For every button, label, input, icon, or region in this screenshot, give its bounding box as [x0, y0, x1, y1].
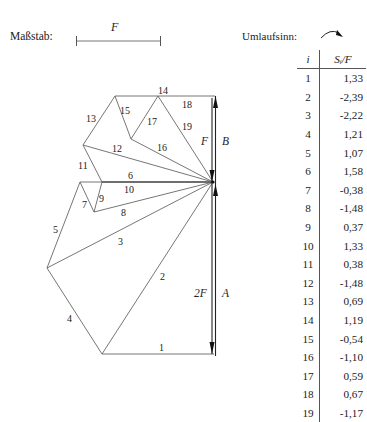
- row-value: -0,38: [320, 181, 367, 200]
- table-row: 15-0,54: [297, 329, 366, 348]
- table-row: 11,33: [297, 69, 366, 88]
- row-value: 1,21: [320, 125, 367, 144]
- force-table: i Sᵢ/F 11,33 2-2,39 3-2,22 41,21 51,07 6…: [297, 50, 366, 422]
- row-index: 1: [297, 69, 320, 88]
- table-header-row: i Sᵢ/F: [297, 50, 366, 69]
- row-value: 0,59: [320, 367, 367, 386]
- row-index: 6: [297, 162, 320, 181]
- row-value: -2,22: [320, 106, 367, 125]
- col-header-s: Sᵢ/F: [320, 50, 367, 69]
- support-label-A: A: [221, 287, 230, 299]
- row-index: 8: [297, 199, 320, 218]
- member-label-4: 4: [67, 313, 72, 324]
- row-value: 0,38: [320, 255, 367, 274]
- row-value: -1,17: [320, 404, 367, 422]
- table-row: 110,38: [297, 255, 366, 274]
- member-label-6: 6: [128, 170, 133, 181]
- row-index: 7: [297, 181, 320, 200]
- row-value: 1,07: [320, 143, 367, 162]
- row-index: 4: [297, 125, 320, 144]
- table-row: 19-1,17: [297, 404, 366, 422]
- table-row: 16-1,10: [297, 348, 366, 367]
- table-row: 12-1,48: [297, 274, 366, 293]
- row-value: -1,48: [320, 199, 367, 218]
- member-label-1: 1: [159, 342, 164, 353]
- row-value: 1,33: [320, 236, 367, 255]
- row-value: -2,39: [320, 88, 367, 107]
- clockwise-arrow-icon: [318, 26, 346, 40]
- row-value: 0,37: [320, 218, 367, 237]
- member-label-5: 5: [53, 224, 58, 235]
- table-row: 3-2,22: [297, 106, 366, 125]
- member-label-2: 2: [160, 271, 165, 282]
- row-value: -0,54: [320, 329, 367, 348]
- member-label-10: 10: [124, 184, 134, 195]
- row-index: 14: [297, 311, 320, 330]
- row-index: 3: [297, 106, 320, 125]
- table-row: 90,37: [297, 218, 366, 237]
- member-label-8: 8: [121, 207, 126, 218]
- table-row: 7-0,38: [297, 181, 366, 200]
- row-value: 1,58: [320, 162, 367, 181]
- row-index: 10: [297, 236, 320, 255]
- table-row: 8-1,48: [297, 199, 366, 218]
- member-label-19: 19: [182, 121, 192, 132]
- row-index: 12: [297, 274, 320, 293]
- row-index: 15: [297, 329, 320, 348]
- table-row: 2-2,39: [297, 88, 366, 107]
- table-row: 180,67: [297, 385, 366, 404]
- support-label-B: B: [222, 135, 229, 147]
- table-row: 41,21: [297, 125, 366, 144]
- member-label-16: 16: [157, 142, 167, 153]
- table-row: 141,19: [297, 311, 366, 330]
- table-row: 170,59: [297, 367, 366, 386]
- row-index: 17: [297, 367, 320, 386]
- row-value: 0,67: [320, 385, 367, 404]
- row-value: -1,48: [320, 274, 367, 293]
- row-index: 18: [297, 385, 320, 404]
- table-row: 51,07: [297, 143, 366, 162]
- row-index: 16: [297, 348, 320, 367]
- force-label-F: F: [200, 135, 209, 147]
- row-index: 9: [297, 218, 320, 237]
- member-label-12: 12: [112, 143, 122, 154]
- force-label-2F: 2F: [194, 287, 208, 299]
- member-label-13: 13: [86, 113, 96, 124]
- member-label-15: 15: [120, 105, 130, 116]
- member-label-18: 18: [182, 99, 192, 110]
- member-label-11: 11: [78, 160, 88, 171]
- member-label-14: 14: [158, 85, 168, 96]
- member-label-3: 3: [118, 236, 123, 247]
- row-index: 19: [297, 404, 320, 422]
- row-index: 5: [297, 143, 320, 162]
- member-label-17: 17: [147, 116, 157, 127]
- row-value: 1,33: [320, 69, 367, 88]
- table-row: 101,33: [297, 236, 366, 255]
- cremona-diagram: F B 2F A 1 2 3 4 5 6 7 8 9 10 11 12 13 1…: [0, 0, 260, 386]
- row-value: 0,69: [320, 292, 367, 311]
- row-index: 13: [297, 292, 320, 311]
- table-row: 61,58: [297, 162, 366, 181]
- row-index: 11: [297, 255, 320, 274]
- col-header-i: i: [297, 50, 320, 69]
- member-label-9: 9: [99, 193, 104, 204]
- row-index: 2: [297, 88, 320, 107]
- table-row: 130,69: [297, 292, 366, 311]
- row-value: -1,10: [320, 348, 367, 367]
- row-value: 1,19: [320, 311, 367, 330]
- member-label-7: 7: [82, 199, 87, 210]
